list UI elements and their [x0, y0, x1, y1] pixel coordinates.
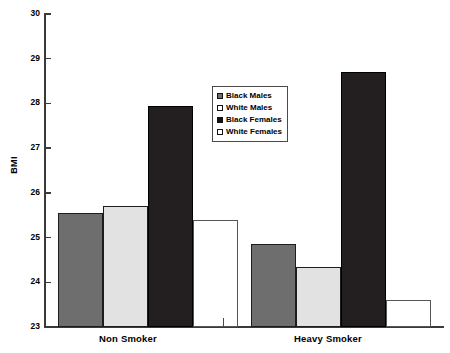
y-tick-label: 29 — [10, 54, 40, 63]
y-tick-label: 25 — [10, 233, 40, 242]
legend-label: Black Males — [226, 92, 272, 100]
legend-item: White Females — [217, 126, 282, 138]
x-axis-label-0: Non Smoker — [58, 333, 198, 344]
group-separator — [223, 318, 224, 327]
y-tick-label: 23 — [10, 322, 40, 331]
y-tick-label: 27 — [10, 143, 40, 152]
legend-label: White Males — [226, 104, 272, 112]
y-tick-label: 26 — [10, 188, 40, 197]
legend-swatch-icon — [217, 93, 223, 99]
legend-swatch-icon — [217, 105, 223, 111]
legend-item: Black Females — [217, 114, 282, 126]
x-axis-label-1: Heavy Smoker — [253, 333, 403, 344]
plot-area — [46, 14, 444, 327]
bar — [341, 72, 386, 327]
legend-label: White Females — [226, 128, 282, 136]
legend-item: White Males — [217, 102, 282, 114]
bmi-bar-chart: BMI 3029282726252423 Non Smoker Heavy Sm… — [0, 0, 450, 353]
legend-item: Black Males — [217, 90, 282, 102]
legend-swatch-icon — [217, 117, 223, 123]
legend-label: Black Females — [226, 116, 282, 124]
bar — [148, 106, 193, 327]
y-tick-label: 30 — [10, 9, 40, 18]
y-tick-label: 28 — [10, 98, 40, 107]
bar — [193, 220, 238, 327]
legend-swatch-icon — [217, 129, 223, 135]
bar — [58, 213, 103, 327]
bar — [251, 244, 296, 327]
y-tick-label: 24 — [10, 277, 40, 286]
bar — [296, 267, 341, 327]
chart-legend: Black MalesWhite MalesBlack FemalesWhite… — [212, 86, 288, 142]
bar — [386, 300, 431, 327]
bar — [103, 206, 148, 327]
